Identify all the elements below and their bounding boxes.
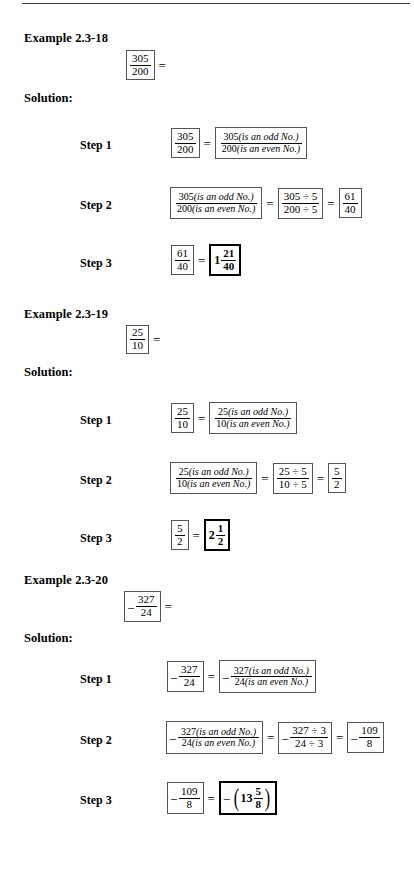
annotated-fraction-box: 305(is an odd No.) 200(is an even No.): [170, 187, 262, 219]
fraction: 61 40: [343, 191, 358, 215]
equals-sign: =: [323, 197, 338, 210]
step1-equation-2: 25 10 = 25(is an odd No.) 10(is an even …: [171, 402, 297, 434]
fraction: 327 24: [179, 664, 200, 688]
step-label-1-3: Step 3: [80, 256, 112, 271]
step-label-1-1: Step 1: [80, 138, 112, 153]
annotated-fraction-box: 25(is an odd No.) 10(is an even No.): [170, 462, 257, 494]
signed-mixed-number: – ( 13 5 8 ): [224, 786, 272, 810]
step-label-2-3: Step 3: [80, 531, 112, 546]
page-top-rule: [22, 3, 410, 4]
minus-sign: –: [171, 671, 179, 683]
equals-sign: =: [313, 472, 328, 485]
step3-equation-1: 61 40 = 1 21 40: [171, 244, 241, 276]
answer-box: – ( 13 5 8 ): [219, 781, 277, 815]
step-label-1-2: Step 2: [80, 198, 112, 213]
example-title-2: Example 2.3-19: [24, 307, 108, 322]
solution-label-2: Solution:: [24, 365, 73, 380]
signed-fraction-box: – 109 8: [167, 782, 204, 814]
minus-sign: –: [128, 601, 136, 613]
signed-fraction: – 327 24: [128, 594, 157, 618]
fraction: 25(is an odd No.) 10(is an even No.): [174, 467, 253, 489]
signed-fraction: – 327(is an odd No.) 24(is an even No.): [223, 666, 312, 688]
parenthesized-group: ( 13 5 8 ): [232, 786, 272, 810]
equals-sign: =: [189, 529, 204, 542]
fraction: 305(is an odd No.) 200(is an even No.): [219, 132, 303, 154]
minus-sign: –: [282, 732, 290, 744]
mixed-number: 2 1 2: [209, 523, 226, 547]
step-label-2-2: Step 2: [80, 473, 112, 488]
fraction: 305 200: [130, 53, 151, 77]
step2-equation-2: 25(is an odd No.) 10(is an even No.) = 2…: [170, 462, 346, 494]
fraction: 61 40: [175, 248, 190, 272]
fraction: 5 2: [332, 466, 342, 490]
signed-fraction-box: – 327 ÷ 3 24 ÷ 3: [278, 722, 332, 754]
fraction: 1 2: [216, 523, 226, 547]
equals-sign: =: [194, 254, 209, 267]
signed-fraction-box: – 109 8: [347, 722, 384, 753]
step-label-3-1: Step 1: [80, 672, 112, 687]
fraction-box: 5 2: [328, 463, 346, 493]
equals-sign: =: [155, 59, 170, 72]
step1-equation-3: – 327 24 = – 327(is an odd No.) 24(is an…: [167, 660, 316, 693]
mixed-number: 1 21 40: [214, 248, 236, 272]
equals-sign: =: [257, 472, 272, 485]
solution-label-1: Solution:: [24, 91, 73, 106]
step1-equation-1: 305 200 = 305(is an odd No.) 200(is an e…: [171, 127, 307, 159]
fraction: 5 2: [175, 523, 185, 547]
solution-label-3: Solution:: [24, 631, 73, 646]
annotated-fraction-box: 25(is an odd No.) 10(is an even No.): [209, 402, 296, 434]
equals-sign: =: [161, 600, 176, 613]
document-page: Example 2.3-18 305 200 = Solution: Step …: [0, 0, 414, 869]
left-paren: (: [233, 789, 238, 808]
fraction: 327 24: [136, 594, 157, 618]
fraction-box: 61 40: [171, 245, 194, 275]
equals-sign: =: [262, 197, 277, 210]
minus-sign: –: [351, 732, 359, 744]
step3-equation-3: – 109 8 = – ( 13 5 8: [167, 781, 277, 815]
equals-sign: =: [200, 137, 215, 150]
equals-sign: =: [332, 731, 347, 744]
step3-equation-2: 5 2 = 2 1 2: [171, 519, 230, 551]
mixed-number: 13 5 8: [241, 786, 264, 810]
fraction-box: 305 200: [171, 128, 200, 158]
step2-equation-1: 305(is an odd No.) 200(is an even No.) =…: [170, 187, 362, 219]
fraction: 25 10: [175, 406, 190, 430]
fraction-box: 61 40: [339, 188, 362, 218]
problem-expression-3: – 327 24 =: [124, 591, 176, 622]
signed-annotated-fraction-box: – 327(is an odd No.) 24(is an even No.): [219, 660, 316, 693]
signed-fraction: – 109 8: [351, 725, 380, 749]
signed-fraction: – 109 8: [171, 786, 200, 810]
signed-fraction: – 327(is an odd No.) 24(is an even No.): [170, 727, 259, 749]
fraction: 327(is an odd No.) 24(is an even No.): [178, 727, 259, 749]
answer-box: 2 1 2: [204, 519, 231, 551]
minus-sign: –: [224, 792, 232, 804]
annotated-fraction-box: 305(is an odd No.) 200(is an even No.): [215, 127, 307, 159]
fraction-box: 25 10: [126, 325, 149, 354]
fraction: 327 ÷ 3 24 ÷ 3: [290, 725, 328, 749]
fraction-box: 305 ÷ 5 200 ÷ 5: [278, 188, 324, 219]
example-title-3: Example 2.3-20: [24, 573, 108, 588]
fraction: 5 8: [254, 786, 264, 810]
fraction: 305(is an odd No.) 200(is an even No.): [174, 192, 258, 214]
fraction: 305 200: [175, 131, 196, 155]
equals-sign: =: [204, 670, 219, 683]
minus-sign: –: [170, 732, 178, 744]
minus-sign: –: [223, 671, 231, 683]
step-label-3-2: Step 2: [80, 733, 112, 748]
signed-fraction-box: – 327 24: [124, 591, 161, 622]
fraction: 21 40: [221, 248, 236, 272]
equals-sign: =: [149, 333, 164, 346]
fraction-box: 25 ÷ 5 10 ÷ 5: [273, 463, 313, 494]
signed-fraction: – 327 24: [171, 664, 200, 688]
signed-fraction: – 327 ÷ 3 24 ÷ 3: [282, 725, 328, 749]
fraction: 25 ÷ 5 10 ÷ 5: [277, 466, 309, 490]
signed-annotated-fraction-box: – 327(is an odd No.) 24(is an even No.): [166, 721, 263, 754]
problem-expression-1: 305 200 =: [126, 50, 170, 80]
fraction-box: 305 200: [126, 50, 155, 80]
fraction-box: 25 10: [171, 403, 194, 433]
step-label-2-1: Step 1: [80, 413, 112, 428]
right-paren: ): [265, 789, 270, 808]
equals-sign: =: [194, 412, 209, 425]
fraction: 305 ÷ 5 200 ÷ 5: [282, 191, 320, 215]
problem-expression-2: 25 10 =: [126, 325, 164, 354]
